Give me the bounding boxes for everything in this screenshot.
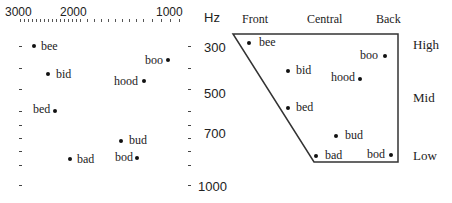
x-axis-tick <box>76 19 77 22</box>
frequency-axis-ticks <box>20 19 180 22</box>
vowel-point-dot <box>334 134 338 138</box>
x-axis-tick <box>129 19 130 22</box>
x-axis-tick <box>52 19 53 22</box>
x-axis-tick <box>101 19 102 22</box>
vowel-point-dot <box>119 139 123 143</box>
vowel-point-label: bee <box>41 39 58 54</box>
y-axis-right-tick <box>188 185 191 186</box>
row-label: Mid <box>413 90 435 106</box>
y-axis-left-tick <box>19 151 22 152</box>
vowel-point-dot <box>286 106 290 110</box>
vowel-point-label: bud <box>129 133 147 148</box>
x-axis-tick <box>20 19 21 22</box>
column-label: Central <box>307 12 342 27</box>
x-axis-tick <box>60 19 61 22</box>
y-axis-right-tick <box>188 125 191 126</box>
x-axis-tick <box>36 19 37 22</box>
y-axis-left-tick <box>19 89 22 90</box>
vowel-point-label: bad <box>77 152 94 167</box>
x-axis-tick <box>64 19 65 22</box>
vowel-point-dot <box>135 156 139 160</box>
x-axis-tick <box>56 19 57 22</box>
x-axis-tick-label: 3000 <box>5 5 32 19</box>
vowel-point-label: bud <box>345 128 363 143</box>
vowel-point-label: boo <box>360 48 378 63</box>
x-axis-tick <box>68 19 69 22</box>
vowel-point-label: bee <box>259 35 276 50</box>
x-axis-tick <box>80 19 81 22</box>
y-axis-right-tick <box>188 165 191 166</box>
x-axis-tick <box>40 19 41 22</box>
vowel-point-dot <box>358 77 362 81</box>
y-axis-left-tick <box>19 46 22 47</box>
y-axis-tick-label: 700 <box>204 126 226 141</box>
y-axis-left-tick <box>19 68 22 69</box>
y-axis-tick-label: 500 <box>204 86 226 101</box>
vowel-point-label: hood <box>114 74 138 89</box>
x-axis-tick <box>170 19 171 22</box>
y-axis-right-tick <box>188 111 191 112</box>
vowel-point-label: bad <box>325 148 342 163</box>
column-label: Front <box>242 12 268 27</box>
row-label: Low <box>413 148 437 164</box>
x-axis-tick <box>87 19 88 22</box>
y-axis-right-tick <box>188 151 191 152</box>
vowel-point-label: bod <box>367 147 385 162</box>
x-axis-unit-label: Hz <box>204 10 220 25</box>
row-label: High <box>413 37 439 53</box>
vowel-point-label: bed <box>33 102 50 117</box>
vowel-point-dot <box>68 157 72 161</box>
y-axis-tick-label: 1000 <box>198 179 227 194</box>
x-axis-tick <box>179 19 180 22</box>
x-axis-tick <box>115 19 116 22</box>
x-axis-tick <box>122 19 123 22</box>
y-axis-right-tick <box>188 68 191 69</box>
y-axis-right-tick <box>188 138 191 139</box>
column-label: Back <box>376 12 401 27</box>
vowel-point-dot <box>53 109 57 113</box>
y-axis-left-tick <box>19 125 22 126</box>
x-axis-tick <box>72 19 73 22</box>
vowel-point-dot <box>247 41 251 45</box>
x-axis-tick <box>94 19 95 22</box>
x-axis-tick <box>44 19 45 22</box>
vowel-point-dot <box>286 69 290 73</box>
vowel-point-label: boo <box>145 53 163 68</box>
x-axis-tick <box>24 19 25 22</box>
x-axis-tick <box>143 19 144 22</box>
x-axis-tick <box>108 19 109 22</box>
y-axis-left-tick <box>19 185 22 186</box>
x-axis-tick-label: 1000 <box>156 5 183 19</box>
x-axis-tick <box>32 19 33 22</box>
vowel-point-label: bid <box>56 67 71 82</box>
x-axis-tick <box>161 19 162 22</box>
vowel-point-dot <box>32 44 36 48</box>
vowel-point-label: bod <box>115 150 133 165</box>
x-axis-tick-label: 2000 <box>60 5 87 19</box>
vowel-point-dot <box>46 72 50 76</box>
x-axis-tick <box>28 19 29 22</box>
vowel-point-label: bid <box>296 63 311 78</box>
vowel-point-dot <box>166 58 170 62</box>
y-axis-left-tick <box>19 165 22 166</box>
vowel-point-dot <box>314 154 318 158</box>
vowel-point-label: bed <box>296 100 313 115</box>
y-axis-left-tick <box>19 111 22 112</box>
x-axis-tick <box>48 19 49 22</box>
x-axis-tick <box>152 19 153 22</box>
y-axis-right-tick <box>188 89 191 90</box>
vowel-point-dot <box>389 153 393 157</box>
y-axis-left-tick <box>19 138 22 139</box>
y-axis-right-tick <box>188 46 191 47</box>
vowel-point-dot <box>383 54 387 58</box>
vowel-point-dot <box>142 79 146 83</box>
y-axis-tick-label: 300 <box>204 40 226 55</box>
x-axis-tick <box>136 19 137 22</box>
diagram-lines <box>0 0 452 203</box>
vowel-point-label: hood <box>331 70 355 85</box>
